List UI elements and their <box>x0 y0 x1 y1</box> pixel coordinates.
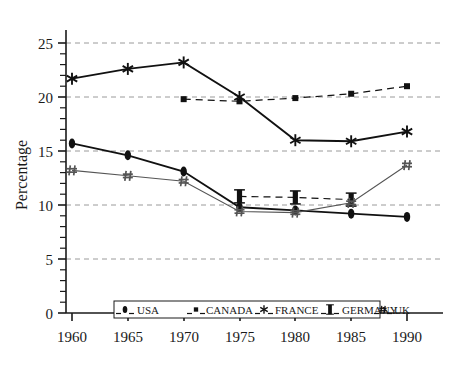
y-tick-label: 15 <box>38 144 53 160</box>
data-point-filled-ellipse <box>69 138 75 148</box>
series-layer <box>67 56 412 221</box>
data-point-filled-ellipse <box>348 209 354 219</box>
y-axis-title: Percentage <box>13 140 31 210</box>
series-germany <box>234 190 356 206</box>
legend-label: FRANCE <box>275 304 319 316</box>
y-minor-ticks <box>60 54 66 302</box>
data-point-filled-square <box>292 95 298 101</box>
y-tick-label: 25 <box>38 36 53 52</box>
x-tick-label: 1985 <box>336 329 366 345</box>
x-tick-label: 1990 <box>392 329 422 345</box>
series-france <box>67 56 412 147</box>
legend-label: UK <box>394 304 410 316</box>
data-point-filled-ellipse <box>123 306 128 313</box>
y-major-ticks <box>58 43 66 313</box>
data-point-filled-ellipse <box>180 167 186 177</box>
x-tick-labels: 1960 1965 1970 1975 1980 1985 1990 <box>57 329 422 345</box>
chart-legend: USACANADAFRANCEGERMANYUK <box>114 301 410 318</box>
chart-canvas: 25 20 15 10 5 0 1960 1965 1970 1975 1980… <box>0 0 460 371</box>
series-uk <box>67 160 412 218</box>
y-tick-label: 20 <box>38 90 53 106</box>
data-point-filled-square <box>181 96 187 102</box>
data-point-filled-ellipse <box>125 150 131 160</box>
legend-item-france[interactable]: FRANCE <box>255 304 319 316</box>
data-point-filled-square <box>348 91 354 97</box>
data-point-filled-square <box>404 83 410 89</box>
gridlines <box>66 43 440 259</box>
legend-label: USA <box>137 304 159 316</box>
x-tick-label: 1965 <box>113 329 143 345</box>
data-point-filled-square <box>194 307 198 311</box>
y-tick-labels: 25 20 15 10 5 0 <box>38 36 53 322</box>
x-tick-label: 1975 <box>225 329 255 345</box>
percentage-line-chart: 25 20 15 10 5 0 1960 1965 1970 1975 1980… <box>0 0 460 371</box>
legend-label: CANADA <box>206 304 253 316</box>
series-canada <box>181 83 410 104</box>
axis-lines <box>66 30 443 313</box>
x-tick-label: 1980 <box>280 329 310 345</box>
x-tick-label: 1960 <box>57 329 87 345</box>
data-point-filled-ellipse <box>404 212 410 222</box>
y-tick-label: 5 <box>46 252 54 268</box>
y-tick-label: 10 <box>38 198 53 214</box>
x-tick-label: 1970 <box>169 329 199 345</box>
y-tick-label: 0 <box>46 306 54 322</box>
